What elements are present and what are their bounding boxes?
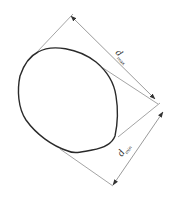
dmin-extension-top bbox=[118, 103, 160, 137]
particle-outline bbox=[18, 48, 117, 153]
svg-text:max: max bbox=[116, 56, 127, 67]
dmax-extension-bottom bbox=[100, 66, 158, 104]
dmin-dimension-line bbox=[113, 112, 163, 185]
svg-text:min: min bbox=[124, 145, 133, 155]
dmin-extension-bottom bbox=[60, 149, 113, 186]
dmin-label: d min bbox=[115, 141, 133, 159]
dmax-label: d max bbox=[112, 47, 131, 66]
particle-dimension-diagram: d max d min bbox=[0, 0, 183, 207]
dmax-extension-top bbox=[37, 14, 73, 52]
